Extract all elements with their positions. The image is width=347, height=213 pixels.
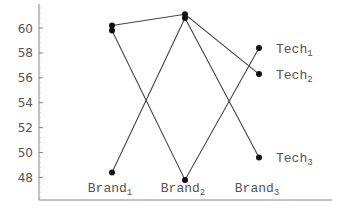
data-point: [182, 15, 188, 21]
series-line-tech3: [112, 18, 259, 172]
data-point: [109, 23, 115, 29]
y-tick-label: 58: [18, 46, 33, 60]
axes: [39, 4, 332, 200]
y-tick-label: 56: [18, 71, 33, 85]
y-tick-label: 48: [18, 171, 33, 185]
series-label-tech2: Tech2: [276, 68, 313, 85]
series-label-tech3: Tech3: [276, 151, 313, 168]
data-markers: [109, 11, 262, 183]
series-line-tech2: [112, 14, 259, 74]
data-point: [109, 169, 115, 175]
category-labels: Brand1Brand2Brand3: [88, 181, 279, 198]
series-labels: Tech1Tech2Tech3: [276, 42, 313, 169]
data-point: [256, 155, 262, 161]
category-label-brand3: Brand3: [235, 181, 279, 198]
category-label-brand1: Brand1: [88, 181, 132, 198]
series-lines: [112, 14, 259, 180]
data-point: [256, 71, 262, 77]
series-line-tech1: [112, 31, 259, 180]
data-point: [256, 45, 262, 51]
category-label-brand2: Brand2: [161, 181, 205, 198]
y-tick-label: 52: [18, 121, 33, 135]
y-tick-label: 60: [18, 22, 33, 36]
series-label-tech1: Tech1: [276, 42, 313, 59]
y-tick-label: 54: [18, 96, 33, 110]
y-tick-label: 50: [18, 146, 33, 160]
interaction-plot: 48505254565860 Brand1Brand2Brand3 Tech1T…: [0, 0, 347, 213]
